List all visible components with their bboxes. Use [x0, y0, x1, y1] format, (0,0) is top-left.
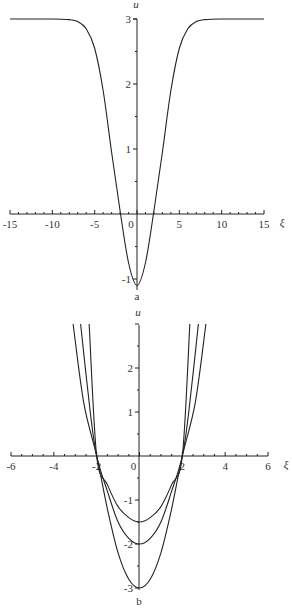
chart-panel-b: -6-4-20246-3-2-112uξb [6, 306, 288, 607]
chart-panel-a: -15-10-5051015-1123uξa [3, 0, 285, 302]
x-tick-label: -5 [90, 218, 100, 230]
y-tick-label: 2 [126, 78, 132, 90]
y-tick-label: 3 [126, 13, 132, 25]
y-tick-label: -2 [124, 538, 133, 550]
figure: -15-10-5051015-1123uξa-6-4-20246-3-2-112… [0, 0, 292, 611]
x-axis-label: ξ [284, 458, 289, 471]
x-tick-label: 0 [131, 460, 137, 472]
panel-label: b [136, 595, 142, 607]
y-axis-label: u [133, 0, 139, 10]
x-tick-label: -15 [3, 218, 18, 230]
x-tick-label: 6 [265, 460, 271, 472]
x-tick-label: 10 [216, 218, 228, 230]
y-axis-label: u [135, 306, 141, 318]
x-tick-label: -10 [45, 218, 60, 230]
x-tick-label: 5 [177, 218, 183, 230]
x-tick-label: 15 [259, 218, 271, 230]
y-tick-label: -1 [124, 494, 133, 506]
y-tick-label: 1 [128, 406, 134, 418]
panel-label: a [135, 290, 140, 302]
x-tick-label: 0 [128, 218, 134, 230]
y-tick-label: 2 [128, 362, 134, 374]
x-tick-label: 4 [222, 460, 228, 472]
x-axis-label: ξ [280, 216, 285, 229]
x-tick-label: -6 [6, 460, 16, 472]
x-tick-label: -4 [49, 460, 59, 472]
y-tick-label: -1 [122, 273, 131, 285]
y-tick-label: 1 [126, 143, 132, 155]
